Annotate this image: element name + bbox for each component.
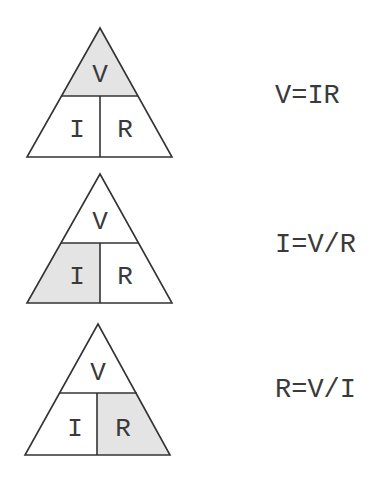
cell-bottom-left — [27, 96, 100, 157]
triangle-v-highlighted: V I R — [27, 28, 172, 157]
label-r: R — [117, 262, 133, 292]
formula-v-equals-ir: V=IR — [275, 81, 340, 111]
formula-i-equals-v-over-r: I=V/R — [275, 230, 356, 260]
cell-bottom-left — [25, 393, 97, 455]
label-i: I — [69, 115, 85, 145]
label-i: I — [67, 414, 83, 444]
label-v: V — [92, 207, 108, 237]
cell-bottom-right — [100, 96, 172, 157]
label-v: V — [92, 60, 108, 90]
formula-r-equals-v-over-i: R=V/I — [275, 375, 356, 405]
label-v: V — [90, 358, 106, 388]
triangle-r-highlighted: V I R — [25, 324, 170, 455]
triangle-i-highlighted: V I R — [27, 174, 172, 303]
label-i: I — [69, 262, 85, 292]
label-r: R — [115, 414, 131, 444]
ohms-law-diagram: V I R V=IR V I R I=V/R V I R R=V/I — [0, 0, 382, 479]
label-r: R — [117, 115, 133, 145]
cell-bottom-right — [100, 243, 172, 303]
cell-bottom-left — [27, 243, 100, 303]
cell-bottom-right — [97, 393, 170, 455]
